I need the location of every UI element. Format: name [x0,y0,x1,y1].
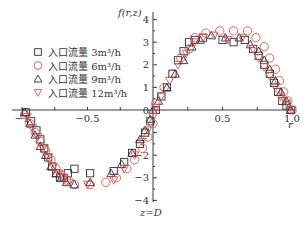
y-tick-label: −4 [134,195,149,206]
legend-label: 入口流量 12m³/h [48,87,128,99]
circle-marker [252,33,260,41]
circle-marker [229,27,237,35]
triangle-up-marker [107,169,115,176]
legend-item: 入口流量 12m³/h [34,87,128,99]
triangle-up-marker [117,160,125,167]
legend-item: 入口流量 6m³/h [34,60,121,72]
triangle-down-marker [34,89,42,96]
legend-item: 入口流量 9m³/h [34,73,121,85]
y-tick-label: 2 [143,59,149,70]
square-marker [174,57,181,64]
y-tick-label: −3 [134,172,149,183]
circle-marker [34,62,42,70]
legend-item: 入口流量 3m³/h [35,46,122,58]
circle-marker [102,178,110,186]
circle-marker [243,27,251,35]
y-tick-label: 1 [143,82,149,93]
circle-marker [216,27,224,35]
y-tick-label: 0 [143,105,149,116]
y-tick-label: 4 [143,14,149,25]
legend-label: 入口流量 9m³/h [48,73,121,85]
square-marker [87,170,94,177]
x-tick-label: −0.5 [75,113,99,124]
y-axis-title: f(r,z) [117,7,142,18]
circle-marker [260,43,268,51]
x-tick-label: 0.5 [215,113,231,124]
legend-label: 入口流量 6m³/h [48,60,121,72]
chart-plot: −1−0.50.51.043210−2−3−4 入口流量 3m³/h入口流量 6… [0,0,305,225]
square-marker [219,36,226,43]
legend-label: 入口流量 3m³/h [48,46,121,58]
triangle-up-marker [34,75,42,82]
triangle-down-marker [271,84,279,91]
square-marker [35,49,42,56]
legend: 入口流量 3m³/h入口流量 6m³/h入口流量 9m³/h入口流量 12m³/… [34,46,128,99]
triangle-down-marker [110,177,118,184]
y-tick-label: 3 [143,37,149,48]
annotation-z-equals-d: z=D [139,207,162,218]
